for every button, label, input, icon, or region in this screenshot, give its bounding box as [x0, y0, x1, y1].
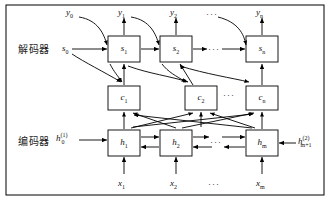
input-row-ellipsis: ··· — [208, 179, 220, 189]
encoder-box-label-h1: h1 — [120, 137, 128, 149]
output-row-ellipsis: ··· — [206, 9, 218, 19]
context-box-label-c2: c2 — [198, 92, 205, 104]
context-row-ellipsis: ··· — [223, 90, 235, 100]
encoder-initial-state: h(1)0 — [56, 132, 65, 145]
output-label-y1: y1 — [118, 7, 125, 19]
encoder-box-label-hm: hm — [257, 137, 266, 149]
feedback-y0-to-s1 — [79, 17, 107, 45]
feedback-ydots-to-sn — [218, 17, 246, 45]
encoder-final-state: h(2)m+1 — [298, 135, 312, 148]
decoder-row-ellipsis: ··· — [208, 44, 220, 54]
input-label-x1: x1 — [118, 178, 125, 190]
row-label-decoder: 解码器 — [18, 41, 50, 56]
context-box-label-c1: c1 — [121, 92, 128, 104]
decoder-initial-state: s0 — [62, 43, 69, 55]
feedback-s2-to-cn — [180, 66, 249, 82]
context-box-label-cn: cn — [259, 92, 266, 104]
input-label-x2: x2 — [170, 178, 177, 190]
feedback-s1-to-c2 — [128, 66, 188, 82]
decoder-box-label-s1: s1 — [121, 43, 128, 55]
output-label-y2: y2 — [170, 7, 177, 19]
encoder-row-ellipsis: ··· — [210, 137, 222, 147]
input-label-xm: xm — [256, 178, 265, 190]
decoder-box-label-s2: s2 — [173, 43, 180, 55]
diagram-canvas: 解码器 编码器 s0 y0 y1 y2 yn ··· s1 s2 sn ··· … — [0, 0, 330, 200]
decoder-box-label-sn: sn — [259, 43, 266, 55]
output-label-y0: y0 — [66, 7, 73, 19]
encoder-box-label-h2: h2 — [172, 137, 180, 149]
row-label-encoder: 编码器 — [18, 133, 50, 148]
attn-h1-to-cn — [133, 114, 253, 127]
output-label-yn: yn — [256, 7, 263, 19]
diagram-svg — [0, 0, 330, 200]
